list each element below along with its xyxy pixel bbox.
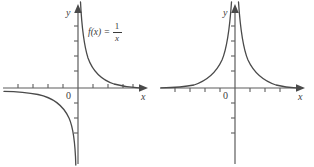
y-axis-left [74,4,82,164]
function-label-left: f(x) = 1 x [88,22,122,43]
denominator-base-left: x [115,33,119,43]
x-axis-label-right: x [297,91,303,102]
x-axis-label-left: x [140,91,146,102]
curve-branch-quadrant-three [4,91,76,165]
graph-panel-f-one-over-x-squared: y x 0 f(x) = 1 x2 [157,0,314,167]
hyperbola-figure: y x 0 f(x) = 1 x [0,0,314,167]
x-axis-right [160,84,305,92]
curve-branch-negative-x [161,2,232,88]
equals-sign-left: = [104,28,109,38]
fraction-left: 1 x [113,22,122,43]
y-axis-ticks-right [231,26,235,133]
x-axis-left [3,84,148,92]
curve-branch-quadrant-one [81,2,140,88]
function-name-left: f(x) [88,28,101,38]
curve-branch-positive-x [239,2,297,88]
y-axis-label-left: y [65,7,71,18]
y-axis-right [231,4,239,164]
origin-label-right: 0 [223,90,228,101]
y-axis-label-right: y [222,7,228,18]
fraction-numerator-left: 1 [113,22,122,32]
origin-label-left: 0 [66,90,71,101]
graph-panel-f-one-over-x: y x 0 f(x) = 1 x [0,0,157,167]
fraction-denominator-left: x [113,33,121,43]
